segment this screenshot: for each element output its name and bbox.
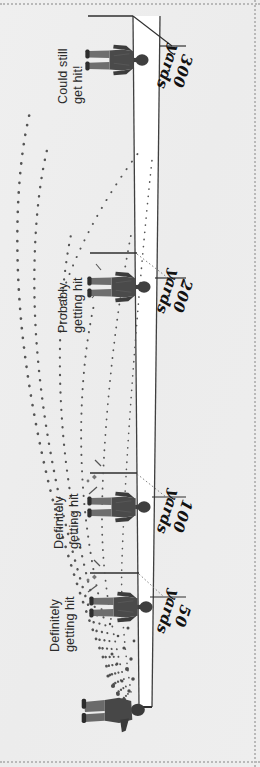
annotation-300-line1: Could still — [56, 48, 71, 104]
annotation-300: Could still get hit! — [56, 48, 85, 104]
annotation-50: Definitely getting hit — [48, 596, 77, 652]
annotation-300-line2: get hit! — [71, 48, 86, 104]
diagram-canvas: Could still get hit! Probably getting hi… — [0, 0, 260, 767]
annotation-200-line2: getting hit — [71, 277, 86, 333]
scene-svg — [0, 0, 260, 767]
annotation-100: Definitely getting hit — [52, 493, 81, 549]
annotation-200: Probably getting hit — [56, 277, 85, 333]
annotation-50-line1: Definitely — [48, 596, 63, 652]
annotation-100-line2: getting hit — [67, 493, 82, 549]
annotation-200-line1: Probably — [56, 277, 71, 333]
annotation-50-line2: getting hit — [63, 596, 78, 652]
annotation-100-line1: Definitely — [52, 493, 67, 549]
